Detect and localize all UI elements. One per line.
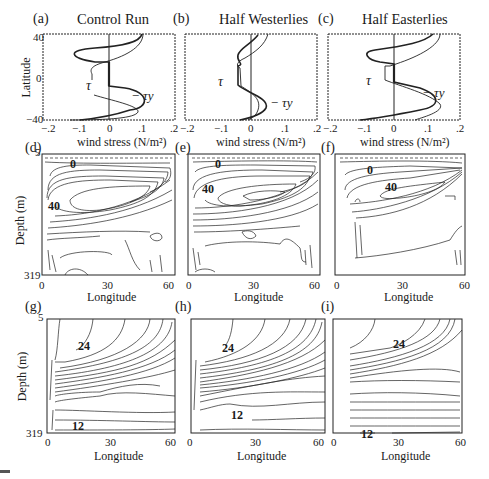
row3-ylabel: Depth (m) xyxy=(15,342,30,412)
plot-frame-e xyxy=(188,154,320,275)
plot-frame-g xyxy=(47,319,175,433)
row3-ytick-top: 5 xyxy=(38,311,44,323)
row1-ylabel: Latitude xyxy=(19,48,34,108)
panel-label-c: (c) xyxy=(318,11,334,27)
row2-ylabel: Depth (m) xyxy=(13,186,28,256)
xtick: 0 xyxy=(334,279,340,291)
tau-label-a: τ xyxy=(86,78,91,94)
row2-xlabel-f: Longitude xyxy=(384,290,433,305)
xtick: .2 xyxy=(313,122,321,134)
ytick-40: 40 xyxy=(33,31,44,43)
row3-xlabel-h: Longitude xyxy=(237,449,286,464)
xtick: .2 xyxy=(456,122,464,134)
xtick: 0 xyxy=(187,436,193,448)
plot-frame-b xyxy=(185,34,317,120)
xtick: 60 xyxy=(459,279,470,291)
plot-frame-a xyxy=(43,34,175,120)
row3-xlabel-i: Longitude xyxy=(381,449,430,464)
panel-label-b: (b) xyxy=(173,11,189,27)
panel-label-h: (h) xyxy=(175,299,191,315)
row1-xlabel-a: wind stress (N/m²) xyxy=(77,135,167,150)
xtick: 60 xyxy=(309,279,320,291)
panel-label-e: (e) xyxy=(175,140,191,156)
xtick: 60 xyxy=(455,436,466,448)
xtick: −.1 xyxy=(357,122,371,134)
row1-xlabel-c: wind stress (N/m²) xyxy=(360,135,450,150)
plot-frame-c xyxy=(328,34,460,120)
panel-title-c: Half Easterlies xyxy=(362,11,448,28)
xtick: −.2 xyxy=(180,122,194,134)
tau-label-c: τ xyxy=(366,73,371,89)
panel-label-a: (a) xyxy=(33,11,49,27)
contour-label-g-12: 12 xyxy=(72,419,84,434)
contour-label-h-24: 24 xyxy=(222,341,234,356)
xtick: −.1 xyxy=(214,122,228,134)
tau-y-label-a: − τy xyxy=(131,88,153,104)
xtick: −.1 xyxy=(72,122,86,134)
panel-title-b: Half Westerlies xyxy=(219,11,308,28)
contour-label-d-40: 40 xyxy=(48,199,60,214)
plot-frame-h xyxy=(191,319,325,433)
row2-ytick-top: 5 xyxy=(35,146,41,158)
row2-xlabel-e: Longitude xyxy=(234,290,283,305)
contour-label-d-0: 0 xyxy=(70,157,76,172)
xtick: 0 xyxy=(331,436,337,448)
xtick: 0 xyxy=(248,122,254,134)
contour-label-f-40: 40 xyxy=(385,180,397,195)
contour-label-i-12: 12 xyxy=(361,427,373,442)
contour-label-e-40: 40 xyxy=(202,182,214,197)
xtick: 0 xyxy=(107,122,113,134)
row3-ytick-bottom: 319 xyxy=(26,427,43,439)
xtick: 0 xyxy=(45,436,51,448)
figure-graphics xyxy=(0,0,489,479)
xtick: −.2 xyxy=(323,122,337,134)
contour-label-e-0: 0 xyxy=(215,157,221,172)
contour-label-g-24: 24 xyxy=(78,339,90,354)
xtick: .1 xyxy=(281,122,289,134)
xtick: .2 xyxy=(170,122,178,134)
plot-frame-d xyxy=(42,154,175,275)
xtick: 30 xyxy=(250,436,261,448)
page-edge-mark xyxy=(0,470,10,473)
xtick: .1 xyxy=(138,122,146,134)
xtick: 60 xyxy=(165,436,176,448)
row2-xlabel-d: Longitude xyxy=(87,290,136,305)
plot-frame-f xyxy=(335,154,465,275)
ytick-0: 0 xyxy=(36,72,42,84)
tau-y-label-c: − τy xyxy=(422,85,444,101)
xtick: .1 xyxy=(424,122,432,134)
contour-label-f-0: 0 xyxy=(367,163,373,178)
xtick: 60 xyxy=(313,436,324,448)
contour-label-h-12: 12 xyxy=(231,408,243,423)
xtick: 0 xyxy=(186,279,192,291)
panel-label-i: (i) xyxy=(321,299,334,315)
xtick: 60 xyxy=(163,279,174,291)
contour-label-i-24: 24 xyxy=(393,337,405,352)
xtick: 30 xyxy=(393,436,404,448)
panel-label-f: (f) xyxy=(321,140,335,156)
tau-y-label-b: − τy xyxy=(270,95,292,111)
row3-xlabel-g: Longitude xyxy=(94,449,143,464)
xtick: 0 xyxy=(391,122,397,134)
xtick: −.2 xyxy=(41,122,55,134)
panel-title-a: Control Run xyxy=(77,11,149,28)
xtick: 0 xyxy=(39,279,45,291)
row1-xlabel-b: wind stress (N/m²) xyxy=(216,135,306,150)
xtick: 30 xyxy=(105,436,116,448)
tau-label-b: τ xyxy=(218,74,223,90)
